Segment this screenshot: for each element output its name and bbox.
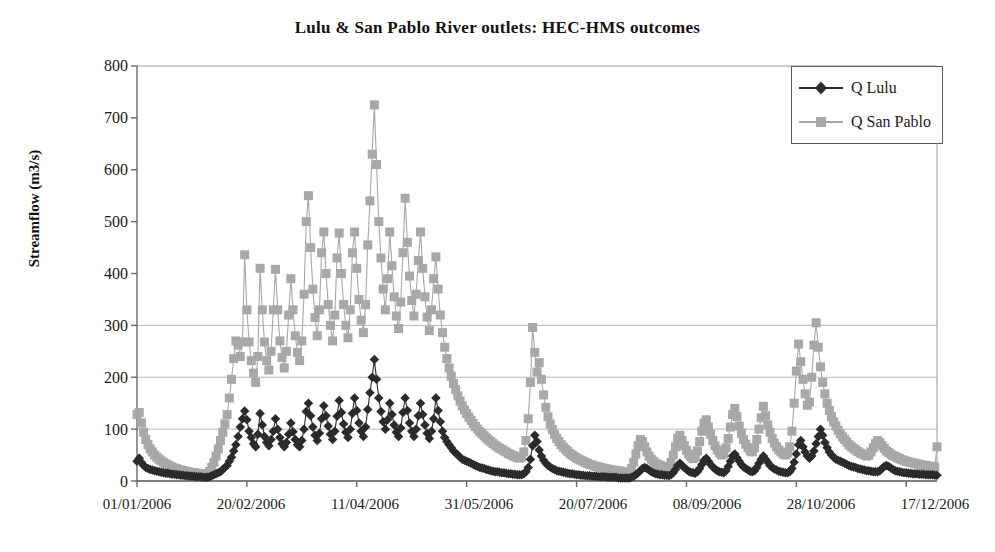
data-point-diamond xyxy=(255,409,265,419)
data-point-square xyxy=(376,253,385,262)
legend-item-q-san-pablo: Q San Pablo xyxy=(798,107,931,137)
data-point-square xyxy=(218,428,227,437)
data-point-diamond xyxy=(240,406,250,416)
data-point-square xyxy=(227,375,236,384)
data-point-square xyxy=(135,408,144,417)
legend-item-q-lulu: Q Lulu xyxy=(798,73,897,103)
data-point-square xyxy=(282,347,291,356)
data-point-square xyxy=(289,305,298,314)
data-point-diamond xyxy=(811,439,821,449)
data-point-square xyxy=(427,305,436,314)
data-point-square xyxy=(293,348,302,357)
data-point-square xyxy=(249,369,258,378)
data-point-diamond xyxy=(334,396,344,406)
data-point-square xyxy=(245,337,254,346)
data-point-square xyxy=(812,318,821,327)
data-point-square xyxy=(440,343,449,352)
data-point-square xyxy=(798,375,807,384)
data-point-square xyxy=(528,323,537,332)
data-point-diamond xyxy=(350,393,360,403)
data-point-square xyxy=(214,444,223,453)
data-point-square xyxy=(302,217,311,226)
data-point-square xyxy=(787,427,796,436)
data-point-square xyxy=(438,328,447,337)
data-point-square xyxy=(801,389,810,398)
data-point-square xyxy=(805,398,814,407)
series-line xyxy=(137,105,937,474)
data-point-diamond xyxy=(374,393,384,403)
data-point-square xyxy=(361,300,370,309)
data-point-square xyxy=(311,313,320,322)
data-point-square xyxy=(357,316,366,325)
data-point-square xyxy=(820,389,829,398)
data-point-square xyxy=(629,458,638,467)
data-point-square xyxy=(242,305,251,314)
data-point-diamond xyxy=(376,407,386,417)
data-point-square xyxy=(420,292,429,301)
data-point-square xyxy=(359,328,368,337)
data-point-square xyxy=(271,265,280,274)
data-point-square xyxy=(761,411,770,420)
data-point-square xyxy=(392,312,401,321)
data-point-diamond xyxy=(304,398,314,408)
data-point-square xyxy=(260,337,269,346)
data-point-square xyxy=(524,414,533,423)
series-q-san-pablo xyxy=(133,100,942,478)
data-point-square xyxy=(280,363,289,372)
data-point-square xyxy=(418,264,427,273)
data-point-square xyxy=(754,425,763,434)
data-point-square xyxy=(295,356,304,365)
data-point-square xyxy=(403,238,412,247)
data-point-square xyxy=(262,356,271,365)
data-point-square xyxy=(445,363,454,372)
data-point-square xyxy=(322,269,331,278)
data-point-square xyxy=(792,367,801,376)
data-point-square xyxy=(790,399,799,408)
data-point-square xyxy=(220,419,229,428)
data-point-square xyxy=(379,285,388,294)
data-point-square xyxy=(814,343,823,352)
data-point-diamond xyxy=(381,424,391,434)
data-point-square xyxy=(267,347,276,356)
legend-label: Q Lulu xyxy=(851,79,897,97)
data-point-square xyxy=(313,331,322,340)
data-point-square xyxy=(236,352,245,361)
legend: Q Lulu Q San Pablo xyxy=(791,66,943,144)
data-point-square xyxy=(324,300,333,309)
data-point-square xyxy=(216,436,225,445)
data-point-square xyxy=(341,321,350,330)
data-point-square xyxy=(372,160,381,169)
data-point-square xyxy=(256,264,265,273)
data-point-square xyxy=(335,229,344,238)
data-point-square xyxy=(785,442,794,451)
data-point-square xyxy=(541,403,550,412)
data-point-square xyxy=(442,354,451,363)
data-point-diamond xyxy=(370,355,380,365)
data-point-square xyxy=(368,150,377,159)
data-point-square xyxy=(539,390,548,399)
data-point-square xyxy=(137,418,146,427)
data-point-square xyxy=(286,274,295,283)
data-point-square xyxy=(387,261,396,270)
data-point-square xyxy=(363,240,372,249)
data-point-diamond xyxy=(286,418,296,428)
data-point-square xyxy=(394,324,403,333)
data-point-square xyxy=(251,378,260,387)
data-point-square xyxy=(315,305,324,314)
data-point-square xyxy=(405,272,414,281)
data-point-diamond xyxy=(365,388,375,398)
data-point-square xyxy=(416,228,425,237)
data-point-diamond xyxy=(405,418,415,428)
data-point-square xyxy=(519,447,528,456)
data-point-square xyxy=(350,228,359,237)
data-point-square xyxy=(258,305,267,314)
data-point-square xyxy=(434,285,443,294)
legend-label: Q San Pablo xyxy=(851,113,931,131)
data-point-diamond xyxy=(420,420,430,430)
data-point-square xyxy=(724,434,733,443)
data-point-diamond xyxy=(233,432,243,442)
data-point-square xyxy=(223,410,232,419)
data-point-square xyxy=(225,394,234,403)
data-point-square xyxy=(326,321,335,330)
data-point-diamond xyxy=(319,401,329,411)
